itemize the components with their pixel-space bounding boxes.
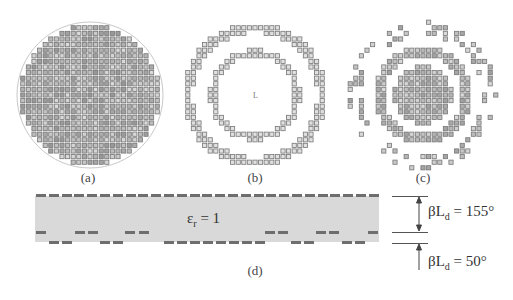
panel-label-d: (d) xyxy=(247,263,262,279)
dimension-50: βLd = 50° xyxy=(428,253,487,272)
dimension-155: βLd = 155° xyxy=(428,203,494,222)
arrow-up-icon xyxy=(417,244,422,250)
arrow-down-icon xyxy=(417,225,422,231)
arrow-up-icon xyxy=(417,197,422,203)
